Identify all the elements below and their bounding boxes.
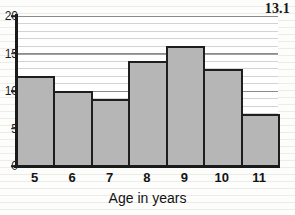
x-axis-tick-labels: 5 6 7 8 9 10 11 — [16, 170, 278, 185]
x-tick-label-11: 11 — [241, 170, 278, 185]
bar-age-8 — [128, 61, 167, 166]
x-tick-label-10: 10 — [203, 170, 240, 185]
x-tick-label-8: 8 — [128, 170, 165, 185]
y-tick-label-10: 10 — [4, 84, 18, 98]
bar-age-10 — [203, 69, 242, 167]
bar-age-9 — [166, 46, 205, 166]
bar-age-5 — [16, 76, 55, 166]
bar-age-11 — [241, 114, 280, 167]
y-tick-label-5: 5 — [4, 122, 18, 136]
bar-age-6 — [53, 91, 92, 166]
bar-group — [16, 16, 278, 166]
histogram-plot-area: 20 15 10 5 0 — [16, 16, 278, 166]
y-tick-label-15: 15 — [4, 47, 18, 61]
x-axis-line — [14, 165, 280, 168]
figure-number-label: 13.1 — [265, 1, 290, 17]
x-tick-label-5: 5 — [16, 170, 53, 185]
y-tick-label-20: 20 — [4, 9, 18, 23]
x-axis-title: Age in years — [0, 190, 295, 206]
x-tick-label-6: 6 — [53, 170, 90, 185]
bar-age-7 — [91, 99, 130, 167]
figure-page: 13.1 20 15 10 5 0 5 6 7 8 — [0, 0, 295, 215]
x-tick-label-9: 9 — [166, 170, 203, 185]
x-tick-label-7: 7 — [91, 170, 128, 185]
